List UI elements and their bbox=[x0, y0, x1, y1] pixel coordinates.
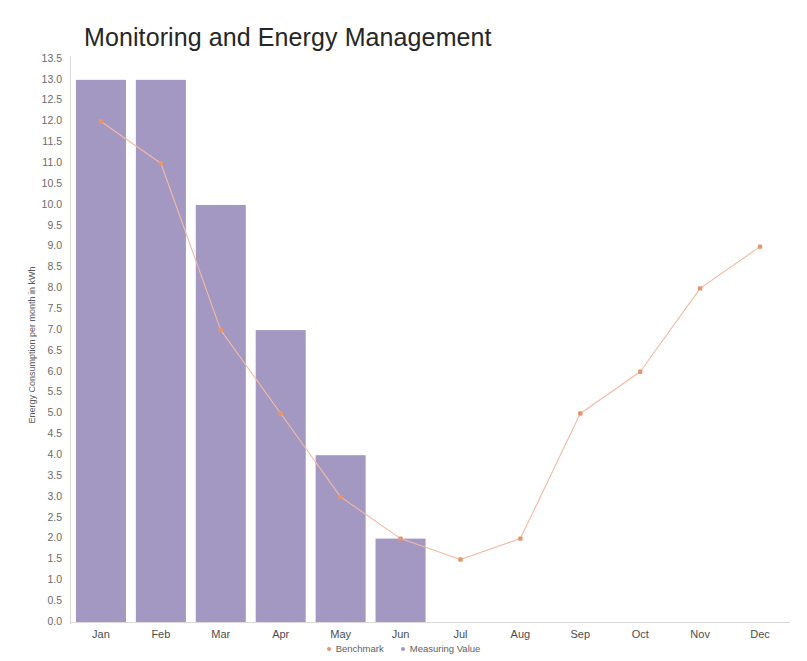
y-tick-label: 5.0 bbox=[47, 406, 62, 418]
x-tick-label: Jun bbox=[392, 628, 410, 640]
bar-mar[interactable] bbox=[196, 205, 246, 622]
y-tick-label: 13.0 bbox=[42, 73, 63, 85]
y-tick-label: 5.5 bbox=[47, 385, 62, 397]
y-tick-label: 0.5 bbox=[47, 594, 62, 606]
x-tick-label: Sep bbox=[571, 628, 591, 640]
y-tick-label: 4.5 bbox=[47, 427, 62, 439]
bar-jan[interactable] bbox=[76, 80, 126, 622]
benchmark-point-may[interactable] bbox=[338, 495, 342, 499]
y-tick-label: 12.5 bbox=[42, 93, 63, 105]
bar-jun[interactable] bbox=[376, 539, 426, 622]
y-tick-label: 11.0 bbox=[42, 156, 62, 168]
y-tick-label: 11.5 bbox=[42, 135, 62, 147]
y-tick-label: 4.0 bbox=[47, 448, 62, 460]
x-tick-label: Jan bbox=[92, 628, 110, 640]
y-tick-label: 1.0 bbox=[47, 573, 62, 585]
y-tick-label: 10.5 bbox=[42, 177, 63, 189]
benchmark-point-oct[interactable] bbox=[638, 370, 642, 374]
x-axis-ticks: JanFebMarAprMayJunJulAugSepOctNovDec bbox=[92, 628, 770, 640]
y-tick-label: 8.5 bbox=[47, 260, 62, 272]
benchmark-point-jan[interactable] bbox=[99, 119, 103, 123]
x-tick-label: May bbox=[330, 628, 351, 640]
y-tick-label: 9.5 bbox=[47, 219, 62, 231]
benchmark-point-nov[interactable] bbox=[698, 286, 702, 290]
y-tick-label: 2.0 bbox=[47, 531, 62, 543]
plot-area: 13.513.012.512.011.511.010.510.09.59.08.… bbox=[0, 0, 807, 661]
x-tick-label: Feb bbox=[151, 628, 170, 640]
legend-swatch-icon bbox=[401, 647, 405, 651]
y-axis-ticks: 13.513.012.512.011.511.010.510.09.59.08.… bbox=[42, 52, 63, 627]
y-tick-label: 1.5 bbox=[47, 552, 62, 564]
benchmark-point-aug[interactable] bbox=[518, 536, 522, 540]
benchmark-point-jun[interactable] bbox=[398, 536, 402, 540]
x-tick-label: Jul bbox=[453, 628, 467, 640]
legend-label: Benchmark bbox=[336, 643, 384, 654]
legend-item-measuring-value[interactable]: Measuring Value bbox=[401, 643, 481, 654]
y-tick-label: 13.5 bbox=[42, 52, 63, 64]
bar-apr[interactable] bbox=[256, 330, 306, 622]
y-tick-label: 10.0 bbox=[42, 198, 63, 210]
benchmark-point-mar[interactable] bbox=[219, 328, 223, 332]
benchmark-point-sep[interactable] bbox=[578, 411, 582, 415]
legend-label: Measuring Value bbox=[410, 643, 481, 654]
y-tick-label: 7.0 bbox=[47, 323, 62, 335]
x-tick-label: Dec bbox=[750, 628, 770, 640]
benchmark-point-feb[interactable] bbox=[159, 161, 163, 165]
y-tick-label: 6.0 bbox=[47, 365, 62, 377]
y-tick-label: 6.5 bbox=[47, 344, 62, 356]
bar-may[interactable] bbox=[316, 455, 366, 622]
benchmark-point-apr[interactable] bbox=[279, 411, 283, 415]
y-tick-label: 2.5 bbox=[47, 511, 62, 523]
x-tick-label: Nov bbox=[690, 628, 710, 640]
legend-item-benchmark[interactable]: Benchmark bbox=[327, 643, 384, 654]
benchmark-point-dec[interactable] bbox=[758, 244, 762, 248]
x-tick-label: Aug bbox=[511, 628, 531, 640]
y-tick-label: 3.0 bbox=[47, 490, 62, 502]
benchmark-point-jul[interactable] bbox=[458, 557, 462, 561]
legend-swatch-icon bbox=[327, 647, 331, 651]
y-tick-label: 0.0 bbox=[47, 615, 62, 627]
y-tick-label: 8.0 bbox=[47, 281, 62, 293]
x-tick-label: Mar bbox=[211, 628, 230, 640]
chart-container: Monitoring and Energy Management Energy … bbox=[0, 0, 807, 661]
y-tick-label: 3.5 bbox=[47, 469, 62, 481]
y-tick-label: 7.5 bbox=[47, 302, 62, 314]
x-tick-label: Apr bbox=[272, 628, 289, 640]
x-tick-label: Oct bbox=[632, 628, 649, 640]
y-tick-label: 9.0 bbox=[47, 239, 62, 251]
bar-series-measuring-value bbox=[76, 80, 426, 622]
chart-legend: BenchmarkMeasuring Value bbox=[0, 643, 807, 654]
y-tick-label: 12.0 bbox=[42, 114, 63, 126]
